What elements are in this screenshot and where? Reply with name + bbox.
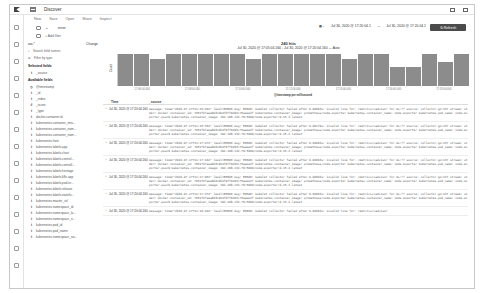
title-bar: Discover bbox=[10, 5, 474, 15]
histogram-bar[interactable] bbox=[326, 54, 341, 86]
nav-share[interactable]: Share bbox=[82, 17, 92, 21]
nav-save[interactable]: Save bbox=[49, 17, 57, 21]
time-range-label[interactable]: Jul 30, 2020 @ 17:05:04.160 - Jul 30, 20… bbox=[103, 46, 474, 50]
logs-icon[interactable] bbox=[14, 161, 19, 166]
management-icon[interactable] bbox=[14, 263, 19, 268]
filter-options-icon[interactable] bbox=[36, 34, 41, 38]
histogram-bar[interactable] bbox=[214, 54, 229, 86]
chevron-down-icon[interactable]: ⌄ bbox=[45, 25, 48, 30]
histogram-bar[interactable] bbox=[310, 54, 325, 86]
histogram-bar[interactable] bbox=[438, 62, 453, 86]
uptime-icon[interactable] bbox=[14, 195, 19, 200]
refresh-button[interactable]: ↻ Refresh bbox=[430, 24, 466, 31]
field-type-icon: t bbox=[30, 133, 33, 137]
maps-icon[interactable] bbox=[14, 110, 19, 115]
field-type-icon: t bbox=[30, 115, 33, 119]
document-table: Time _source ›Jul 30, 2020 @ 17:20:04.16… bbox=[103, 99, 468, 288]
app-window: Discover New Save Open Share Inspect ⌄ e… bbox=[9, 4, 475, 289]
field-type-icon: t bbox=[30, 145, 33, 149]
histogram-bar[interactable] bbox=[422, 54, 437, 86]
field-type-icon: t bbox=[30, 235, 33, 239]
table-row[interactable]: ›Jul 30, 2020 @ 17:20:04.160message: tim… bbox=[103, 122, 468, 139]
app-title: Discover bbox=[44, 7, 62, 12]
discover-icon[interactable] bbox=[14, 42, 19, 47]
histogram-bar[interactable] bbox=[294, 54, 309, 86]
discover-main: 240 hits Jul 30, 2020 @ 17:05:04.160 - J… bbox=[103, 41, 474, 288]
field-search-input[interactable]: Search field names bbox=[33, 49, 60, 53]
histogram-bar[interactable] bbox=[118, 54, 133, 86]
ml-icon[interactable] bbox=[14, 127, 19, 132]
histogram-bar[interactable] bbox=[454, 54, 469, 86]
monitoring-icon[interactable] bbox=[14, 246, 19, 251]
kibana-logo-icon[interactable] bbox=[14, 7, 20, 12]
histogram-chart[interactable]: Count 17:06:00.00017:08:00.00017:10:00.0… bbox=[117, 54, 469, 94]
table-row[interactable]: ›Jul 30, 2020 @ 17:20:04.160message: tim… bbox=[103, 207, 468, 216]
histogram-bar[interactable] bbox=[150, 59, 165, 86]
histogram-bar[interactable] bbox=[390, 67, 405, 86]
fullscreen-icon[interactable] bbox=[450, 8, 455, 12]
column-header-time[interactable]: Time bbox=[103, 100, 149, 104]
table-row[interactable]: ›Jul 30, 2020 @ 17:20:04.160message: tim… bbox=[103, 190, 468, 207]
field-type-icon: t bbox=[30, 223, 33, 227]
x-axis-ticks: 17:06:00.00017:08:00.00017:10:00.00017:1… bbox=[117, 88, 469, 91]
nav-open[interactable]: Open bbox=[65, 17, 74, 21]
histogram-bar[interactable] bbox=[182, 54, 197, 86]
histogram-bar[interactable] bbox=[134, 54, 149, 86]
histogram-bar[interactable] bbox=[262, 54, 277, 86]
field-type-icon: t bbox=[30, 157, 33, 161]
dashboard-icon[interactable] bbox=[14, 76, 19, 81]
field-type-icon: # bbox=[30, 103, 33, 107]
field-sidebar: aw-* Change ⌕ Search field names ⊜ Filte… bbox=[24, 41, 102, 288]
histogram-bar[interactable] bbox=[358, 54, 373, 86]
histogram-bar[interactable] bbox=[230, 54, 245, 86]
table-row[interactable]: ›Jul 30, 2020 @ 17:20:04.160message: tim… bbox=[103, 139, 468, 156]
saved-query-icon[interactable] bbox=[36, 26, 41, 30]
date-picker: ▦⌄ Jul 30, 2020 @ 17:20:04.1 → Jul 30, 2… bbox=[319, 24, 426, 28]
apm-icon[interactable] bbox=[14, 178, 19, 183]
filter-by-type-button[interactable]: Filter by type bbox=[34, 56, 52, 60]
start-date[interactable]: Jul 30, 2020 @ 17:20:04.1 bbox=[331, 24, 371, 28]
dev-tools-icon[interactable] bbox=[14, 229, 19, 234]
histogram-bar[interactable] bbox=[406, 67, 421, 86]
nav-new[interactable]: New bbox=[34, 17, 41, 21]
siem-icon[interactable] bbox=[14, 212, 19, 217]
histogram-bar[interactable] bbox=[198, 54, 213, 86]
field-type-icon: t bbox=[30, 109, 33, 113]
field-type-icon: t bbox=[30, 169, 33, 173]
histogram-bar[interactable] bbox=[166, 54, 181, 86]
change-index-link[interactable]: Change bbox=[86, 42, 98, 46]
x-axis-label: @timestamp per millisecond bbox=[117, 93, 469, 97]
field-type-icon: t bbox=[30, 127, 33, 131]
table-row[interactable]: ›Jul 30, 2020 @ 17:20:04.160message: tim… bbox=[103, 156, 468, 173]
column-header-source[interactable]: _source bbox=[149, 100, 161, 104]
field-type-icon: t bbox=[30, 193, 33, 197]
hamburger-menu-icon[interactable] bbox=[30, 7, 36, 12]
field-type-icon: ◷ bbox=[30, 85, 33, 89]
search-icon: ⌕ bbox=[28, 49, 30, 53]
field-type-icon: t bbox=[30, 175, 33, 179]
index-pattern-selector[interactable]: aw-* bbox=[28, 42, 35, 46]
field-type-icon: t bbox=[30, 187, 33, 191]
add-filter-button[interactable]: + Add filter bbox=[45, 34, 61, 38]
field-type-icon: t bbox=[30, 229, 33, 233]
nav-inspect[interactable]: Inspect bbox=[100, 17, 112, 21]
help-icon[interactable] bbox=[463, 8, 468, 12]
end-date[interactable]: Jul 30, 2020 @ 17:20:04.1 bbox=[386, 24, 426, 28]
field-type-icon: t bbox=[30, 199, 33, 203]
field-type-icon: t bbox=[30, 121, 33, 125]
field-type-icon: t bbox=[30, 205, 33, 209]
calendar-icon[interactable]: ▦⌄ bbox=[319, 24, 325, 28]
infra-icon[interactable] bbox=[14, 144, 19, 149]
table-row[interactable]: ›Jul 30, 2020 @ 17:20:04.160message: tim… bbox=[103, 105, 468, 122]
histogram-bar[interactable] bbox=[278, 54, 293, 86]
visualize-icon[interactable] bbox=[14, 59, 19, 64]
histogram-bar[interactable] bbox=[246, 59, 261, 86]
y-axis-label: Count bbox=[109, 64, 113, 72]
search-input[interactable]: error bbox=[58, 26, 66, 30]
histogram-bar[interactable] bbox=[374, 54, 389, 86]
canvas-icon[interactable] bbox=[14, 93, 19, 98]
available-field[interactable]: tkubernetes.namespace_na... bbox=[24, 234, 102, 240]
clock-icon[interactable] bbox=[14, 25, 19, 30]
table-row[interactable]: ›Jul 30, 2020 @ 17:20:04.160message: tim… bbox=[103, 173, 468, 190]
histogram-bar[interactable] bbox=[342, 59, 357, 86]
